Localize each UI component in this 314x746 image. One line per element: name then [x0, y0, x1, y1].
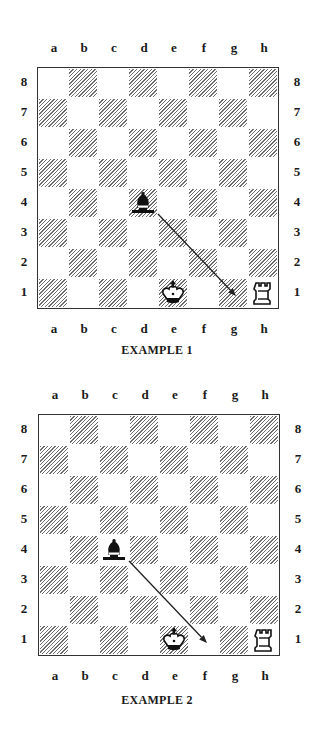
square-e2	[159, 595, 189, 625]
square-a5	[38, 158, 68, 188]
square-f5	[189, 505, 219, 535]
file-label-bottom-e: e	[167, 668, 183, 684]
file-label-top-h: h	[257, 387, 273, 403]
rank-label-left-6: 6	[16, 134, 32, 150]
square-c6	[98, 128, 128, 158]
square-h8	[249, 415, 279, 445]
white-king-icon	[158, 278, 188, 308]
rank-label-right-1: 1	[289, 284, 305, 300]
rank-label-left-2: 2	[16, 254, 32, 270]
square-a5	[39, 505, 69, 535]
square-g5	[218, 158, 248, 188]
square-c1	[98, 278, 128, 308]
file-label-top-g: g	[227, 387, 243, 403]
square-h3	[249, 565, 279, 595]
square-e8	[159, 415, 189, 445]
file-label-top-f: f	[197, 387, 213, 403]
rank-label-right-4: 4	[290, 541, 306, 557]
square-e3	[159, 565, 189, 595]
square-f2	[188, 248, 218, 278]
square-f4	[189, 535, 219, 565]
square-c3	[98, 218, 128, 248]
square-e5	[158, 158, 188, 188]
file-label-bottom-f: f	[197, 668, 213, 684]
square-d3	[128, 218, 158, 248]
square-g2	[219, 595, 249, 625]
square-a7	[38, 98, 68, 128]
chessboard	[38, 414, 280, 656]
square-f1	[188, 278, 218, 308]
rank-label-left-8: 8	[16, 74, 32, 90]
square-g6	[218, 128, 248, 158]
rank-label-left-3: 3	[16, 224, 32, 240]
square-d6	[128, 128, 158, 158]
white-rook-icon	[249, 625, 279, 655]
square-c7	[99, 445, 129, 475]
rank-label-right-3: 3	[290, 571, 306, 587]
square-h3	[248, 218, 278, 248]
square-b1	[69, 625, 99, 655]
square-f8	[189, 415, 219, 445]
rank-label-right-5: 5	[289, 164, 305, 180]
square-b4	[69, 535, 99, 565]
file-label-bottom-d: d	[137, 668, 153, 684]
square-a4	[38, 188, 68, 218]
square-a2	[38, 248, 68, 278]
file-label-bottom-b: b	[76, 321, 92, 337]
file-label-top-c: c	[107, 387, 123, 403]
black-bishop-icon	[128, 188, 158, 218]
chessboard	[37, 67, 279, 309]
rank-label-left-2: 2	[16, 601, 32, 617]
square-g1	[219, 625, 249, 655]
square-h2	[248, 248, 278, 278]
square-e7	[159, 445, 189, 475]
white-king-icon	[159, 625, 189, 655]
square-b7	[69, 445, 99, 475]
file-label-bottom-h: h	[256, 321, 272, 337]
square-a7	[39, 445, 69, 475]
square-c2	[99, 595, 129, 625]
rank-label-left-4: 4	[16, 194, 32, 210]
rank-label-left-1: 1	[16, 631, 32, 647]
square-e2	[158, 248, 188, 278]
square-c1	[99, 625, 129, 655]
square-a8	[38, 68, 68, 98]
rank-label-left-4: 4	[16, 541, 32, 557]
square-b8	[69, 415, 99, 445]
square-h4	[248, 188, 278, 218]
rank-label-right-6: 6	[289, 134, 305, 150]
rank-label-right-6: 6	[290, 481, 306, 497]
square-b2	[69, 595, 99, 625]
square-a6	[38, 128, 68, 158]
square-h5	[249, 505, 279, 535]
rank-label-left-3: 3	[16, 571, 32, 587]
square-b3	[68, 218, 98, 248]
square-c2	[98, 248, 128, 278]
file-label-top-e: e	[167, 387, 183, 403]
square-g3	[218, 218, 248, 248]
file-label-bottom-c: c	[107, 668, 123, 684]
file-label-bottom-g: g	[226, 321, 242, 337]
square-g8	[218, 68, 248, 98]
file-label-top-b: b	[76, 40, 92, 56]
square-d1	[128, 278, 158, 308]
square-b8	[68, 68, 98, 98]
rank-label-right-8: 8	[290, 421, 306, 437]
square-d6	[129, 475, 159, 505]
rank-label-right-2: 2	[289, 254, 305, 270]
square-f1	[189, 625, 219, 655]
square-d3	[129, 565, 159, 595]
square-h7	[249, 445, 279, 475]
file-label-bottom-d: d	[136, 321, 152, 337]
square-g8	[219, 415, 249, 445]
file-label-top-a: a	[47, 387, 63, 403]
file-label-top-a: a	[46, 40, 62, 56]
square-d5	[129, 505, 159, 535]
square-g5	[219, 505, 249, 535]
file-label-top-d: d	[136, 40, 152, 56]
square-f5	[188, 158, 218, 188]
rank-label-right-1: 1	[290, 631, 306, 647]
square-b2	[68, 248, 98, 278]
rank-label-left-7: 7	[16, 104, 32, 120]
square-d5	[128, 158, 158, 188]
